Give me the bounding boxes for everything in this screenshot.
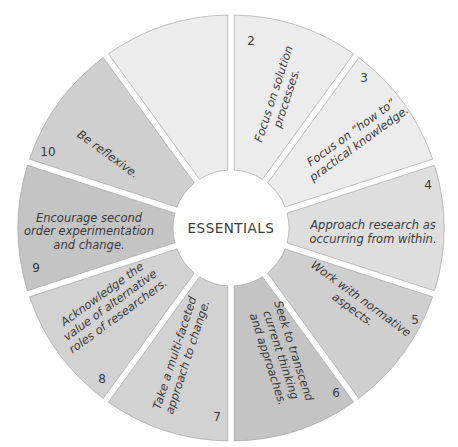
essentials-wheel-diagram: Focus ontransformations.1Focus on soluti… <box>0 0 458 447</box>
segment-text-line: and change. <box>53 238 124 252</box>
segment-number: 7 <box>213 410 221 424</box>
segment-text-line: Encourage second <box>36 211 143 225</box>
center-label: ESSENTIALS <box>188 220 275 236</box>
segment-number: 9 <box>32 261 40 275</box>
segment-number: 8 <box>98 372 106 386</box>
segment-number: 10 <box>40 145 55 159</box>
segment-number: 4 <box>424 178 432 192</box>
segment-number: 6 <box>332 386 340 400</box>
segment-text-line: order experimentation <box>24 224 154 238</box>
segment-text-line: occurring from within. <box>309 232 436 246</box>
segment-number: 2 <box>247 34 255 48</box>
segment-text: Approach research asoccurring from withi… <box>309 218 436 246</box>
segment-number: 3 <box>360 71 368 85</box>
segment-text-line: Approach research as <box>309 218 436 232</box>
segment-number: 5 <box>411 313 419 327</box>
